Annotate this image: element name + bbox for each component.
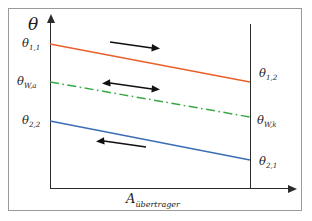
wall-outlet-label-sub: W,k xyxy=(264,120,277,129)
x-axis-label-sub: übertrager xyxy=(135,200,180,209)
hot-fluid-outlet-label: θ1,2 xyxy=(259,68,277,81)
cold-fluid-inlet-label: θ2,2 xyxy=(22,115,40,128)
x-axis-label-base: A xyxy=(126,191,135,206)
heat-exchanger-temperature-profile-figure: θ θ1,1 θW,a θ2,2 θ1,2 θW,k θ2,1 Aübertra… xyxy=(0,0,312,221)
x-axis-label: Aübertrager xyxy=(126,192,180,209)
wall-inlet-label: θW,a xyxy=(17,76,37,89)
wall-heat-transfer-arrow xyxy=(102,79,160,92)
cold-fluid-inlet-label-sub: 2,2 xyxy=(29,120,40,129)
cold-fluid-temperature-line xyxy=(50,121,250,160)
cold-fluid-outlet-label-base: θ xyxy=(259,154,266,168)
wall-outlet-label-base: θ xyxy=(257,113,264,127)
hot-fluid-inlet-label-base: θ xyxy=(22,36,29,50)
hot-flow-direction-arrow xyxy=(110,42,160,51)
hot-fluid-inlet-label-sub: 1,1 xyxy=(29,43,40,52)
y-axis-label: θ xyxy=(28,16,38,33)
wall-inlet-label-sub: W,a xyxy=(24,81,37,90)
hot-fluid-outlet-label-sub: 1,2 xyxy=(266,73,277,82)
wall-outlet-label: θW,k xyxy=(257,115,277,128)
cold-fluid-outlet-label: θ2,1 xyxy=(259,156,277,169)
hot-fluid-inlet-label: θ1,1 xyxy=(22,38,40,51)
cold-fluid-outlet-label-sub: 2,1 xyxy=(266,161,277,170)
cold-fluid-inlet-label-base: θ xyxy=(22,113,29,127)
wall-temperature-line xyxy=(50,82,250,117)
wall-inlet-label-base: θ xyxy=(17,74,24,88)
hot-fluid-outlet-label-base: θ xyxy=(259,66,266,80)
temperature-curves xyxy=(0,0,312,221)
hot-fluid-temperature-line xyxy=(50,44,250,82)
